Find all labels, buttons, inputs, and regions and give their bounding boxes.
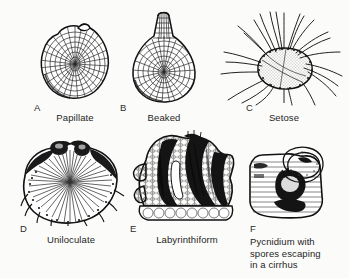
papillate-pycnidium-illustration — [38, 22, 112, 102]
panel-a-label: Papillate — [25, 112, 125, 124]
beaked-pycnidium-illustration — [128, 10, 200, 104]
panel-d-label: Uniloculate — [18, 234, 124, 246]
panel-f-letter: F — [250, 224, 256, 234]
panel-d-letter: D — [20, 224, 27, 234]
cirrhus-pycnidium-illustration — [246, 144, 342, 222]
labyrinthiform-pycnidium-illustration — [128, 130, 246, 226]
panel-c-label: Setose — [234, 112, 334, 124]
setose-pycnidium-illustration — [218, 8, 346, 106]
panel-f-label: Pycnidium with spores escaping in a cirr… — [250, 236, 348, 271]
panel-e-label: Labyrinthiform — [132, 234, 242, 246]
panel-e-letter: E — [130, 224, 137, 234]
uniloculate-pycnidium-illustration — [12, 132, 128, 226]
panel-b-label: Beaked — [114, 112, 214, 124]
